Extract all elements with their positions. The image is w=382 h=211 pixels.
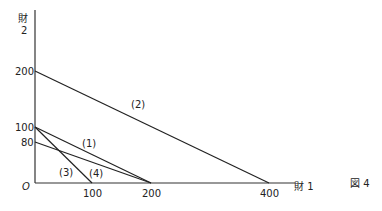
y-axis-label-1: 財 bbox=[18, 12, 28, 24]
line-2-label: (2) bbox=[131, 99, 145, 110]
x-tick-100: 100 bbox=[83, 188, 102, 199]
y-tick-80: 80 bbox=[21, 137, 34, 148]
y-axis-label-2: 2 bbox=[21, 25, 27, 36]
line-1-label: (1) bbox=[82, 138, 96, 149]
budget-line-diagram: 財 2 財 1 O 200 100 80 100 200 400 (2) (1)… bbox=[0, 0, 382, 211]
x-tick-400: 400 bbox=[260, 188, 279, 199]
origin-label: O bbox=[22, 181, 30, 192]
y-tick-200: 200 bbox=[15, 66, 34, 77]
line-3-label: (3) bbox=[59, 167, 73, 178]
line-4-label: (4) bbox=[89, 168, 103, 179]
x-tick-200: 200 bbox=[142, 188, 161, 199]
x-axis-label: 財 1 bbox=[294, 180, 314, 192]
figure-label: 図 4 bbox=[350, 178, 370, 189]
y-tick-100: 100 bbox=[15, 122, 34, 133]
